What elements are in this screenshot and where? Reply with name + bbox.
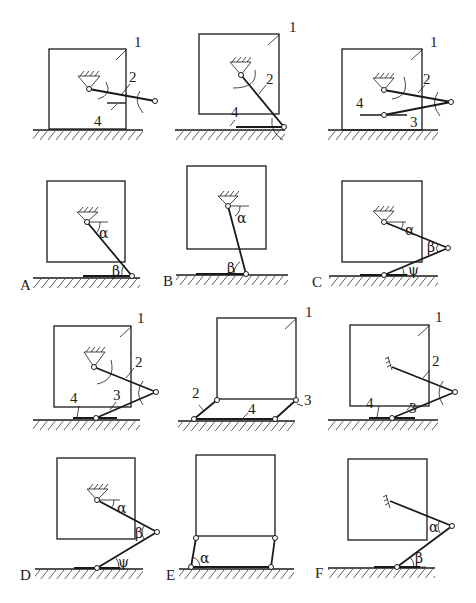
part-label-3: 3 — [409, 400, 417, 416]
angle-psi: ψ — [118, 554, 129, 570]
angle-alpha: α — [429, 519, 439, 535]
panel-a-bottom: α β A — [20, 181, 140, 293]
rotation-arrow-icon — [439, 381, 443, 405]
ground-hatch — [178, 422, 295, 431]
part-label-3: 3 — [410, 114, 418, 130]
fixed-wall-icon — [385, 357, 392, 370]
link-2 — [94, 367, 156, 392]
angle-beta: β — [227, 260, 235, 276]
panel-f-bottom: α β F — [315, 459, 455, 581]
ground-hatch — [328, 569, 435, 578]
angle-beta: β — [112, 263, 120, 279]
panel-a-top: 1 2 4 — [33, 34, 158, 140]
panel-e-bottom: α E — [166, 455, 294, 583]
link-2 — [194, 400, 217, 419]
angle-alpha: α — [405, 222, 415, 238]
part-label-2: 2 — [423, 71, 431, 87]
link-3 — [275, 400, 296, 419]
link-2 — [384, 222, 448, 248]
variant-label-d: D — [20, 567, 31, 583]
panel-b-bottom: α β B — [163, 166, 288, 289]
angle-psi: ψ — [408, 262, 419, 278]
part-label-2: 2 — [432, 353, 440, 369]
ground-hatch — [328, 131, 438, 140]
link-3 — [392, 392, 455, 418]
link-2 — [390, 501, 452, 526]
ground-hatch — [175, 131, 285, 140]
part-label-1: 1 — [305, 304, 313, 320]
part-label-4: 4 — [94, 113, 102, 129]
part-label-4: 4 — [366, 395, 374, 411]
part-label-1: 1 — [134, 34, 142, 50]
angle-alpha: α — [117, 500, 127, 516]
part-label-1: 1 — [289, 19, 297, 35]
part-label-4: 4 — [70, 390, 78, 406]
body-1 — [217, 318, 296, 399]
part-label-2: 2 — [135, 354, 143, 370]
part-label-1: 1 — [430, 34, 438, 50]
angle-alpha: α — [99, 225, 109, 241]
ground-hatch — [179, 570, 294, 579]
panel-e-top: 1 2 3 4 — [178, 304, 313, 431]
part-label-2: 2 — [192, 385, 200, 401]
link-2 — [191, 538, 196, 567]
part-label-4: 4 — [231, 104, 239, 120]
ground-hatch — [35, 570, 143, 579]
variant-label-c: C — [312, 274, 322, 290]
angle-beta: β — [415, 550, 423, 566]
link-3 — [384, 102, 451, 115]
rotation-arrow-icon — [392, 77, 406, 99]
ground-hatch — [33, 131, 143, 140]
panel-c-top: 1 2 3 4 — [328, 34, 454, 140]
link-2 — [241, 75, 284, 127]
rotation-arrow-icon — [137, 91, 143, 113]
link-3 — [96, 392, 156, 418]
link-3 — [271, 538, 275, 567]
ground-hatch — [176, 276, 288, 285]
part-label-2: 2 — [266, 71, 274, 87]
fixed-pivot-icon — [84, 347, 105, 367]
variant-label-f: F — [315, 565, 323, 581]
part-label-2: 2 — [129, 69, 137, 85]
link-2 — [89, 89, 155, 101]
variant-label-b: B — [163, 273, 173, 289]
panel-b-top: 1 2 4 — [175, 19, 297, 140]
ground-hatch — [329, 277, 438, 286]
variant-label-e: E — [166, 567, 175, 583]
ground-hatch — [33, 421, 140, 430]
fixed-wall-icon — [383, 495, 390, 508]
ground-hatch — [33, 279, 140, 288]
link-3 — [397, 526, 452, 567]
part-label-4: 4 — [356, 95, 364, 111]
ground-hatch — [328, 421, 438, 430]
part-label-3: 3 — [304, 392, 312, 408]
part-label-3: 3 — [113, 387, 121, 403]
variant-label-a: A — [20, 277, 31, 293]
part-label-4: 4 — [248, 401, 256, 417]
panel-d-top: 1 2 3 4 — [33, 310, 159, 430]
angle-beta: β — [427, 239, 435, 255]
panel-f-top: 1 2 3 4 — [328, 309, 458, 430]
part-label-1: 1 — [435, 309, 443, 325]
mechanism-diagram: 1 2 4 1 2 4 — [0, 0, 476, 603]
panel-d-bottom: α β ψ D — [20, 458, 160, 583]
angle-beta: β — [135, 525, 143, 541]
part-label-1: 1 — [137, 310, 145, 326]
panel-c-bottom: α β ψ C — [312, 181, 451, 290]
link-2 — [392, 367, 455, 392]
angle-alpha: α — [200, 550, 210, 566]
angle-alpha: α — [237, 210, 247, 226]
link-2 — [97, 500, 157, 532]
link-2 — [384, 90, 451, 102]
body-1 — [196, 455, 275, 536]
